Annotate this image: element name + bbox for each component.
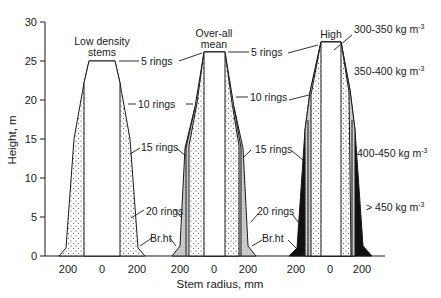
ring-label-10: 10 rings bbox=[138, 98, 175, 110]
y-tick-15: 15 bbox=[25, 133, 37, 145]
stem-density-diagram: 30 25 20 15 10 5 0 Height, m 200 0 200 2… bbox=[0, 0, 441, 298]
ring-label-15: 15 rings bbox=[255, 143, 292, 155]
x-axis-label: Stem radius, mm bbox=[177, 278, 264, 290]
x-tick: 200 bbox=[353, 263, 371, 275]
y-tick-20: 20 bbox=[25, 94, 37, 106]
density-350-400: 350-400 kg m-3 bbox=[354, 65, 425, 77]
y-axis-label: Height, m bbox=[6, 115, 18, 164]
x-tick: 0 bbox=[327, 263, 333, 275]
profile-low-density bbox=[59, 61, 145, 256]
x-tick: 200 bbox=[239, 263, 257, 275]
profile-overall-mean bbox=[172, 52, 256, 256]
ring-label-20: 20 rings bbox=[257, 205, 294, 217]
y-tick-labels: 30 25 20 15 10 5 0 bbox=[25, 16, 37, 262]
y-tick-0: 0 bbox=[31, 250, 37, 262]
low-title: Low density stems bbox=[74, 35, 130, 58]
mid-title: Over-all mean bbox=[196, 27, 233, 50]
profile-title: stems bbox=[88, 46, 116, 58]
y-tick-25: 25 bbox=[25, 55, 37, 67]
ring-label-20: 20 rings bbox=[146, 205, 183, 217]
ring-label-10: 10 rings bbox=[250, 91, 287, 103]
density-400-450: 400-450 kg m-3 bbox=[357, 147, 428, 159]
ring-label-5: 5 rings bbox=[141, 55, 173, 67]
x-tick: 200 bbox=[287, 263, 305, 275]
ring-label-15: 15 rings bbox=[141, 141, 178, 153]
profile-title: mean bbox=[201, 38, 227, 50]
density-labels: 300-350 kg m-3 350-400 kg m-3 400-450 kg… bbox=[354, 23, 428, 213]
br-ht-label: Br.ht bbox=[262, 232, 284, 244]
x-tick: 0 bbox=[211, 263, 217, 275]
y-tick-10: 10 bbox=[25, 172, 37, 184]
x-tick: 0 bbox=[99, 263, 105, 275]
x-tick: 200 bbox=[59, 263, 77, 275]
y-tick-30: 30 bbox=[25, 16, 37, 28]
br-ht-label: Br.ht bbox=[150, 232, 172, 244]
density-300-350: 300-350 kg m-3 bbox=[354, 23, 425, 35]
x-tick: 200 bbox=[128, 263, 146, 275]
y-tick-5: 5 bbox=[31, 211, 37, 223]
ring-label-5: 5 rings bbox=[251, 46, 283, 58]
x-tick-labels: 200 0 200 200 0 200 200 0 200 bbox=[59, 263, 371, 275]
high-title: High bbox=[320, 28, 342, 40]
x-tick: 200 bbox=[171, 263, 189, 275]
density-over-450: > 450 kg m-3 bbox=[366, 201, 425, 213]
